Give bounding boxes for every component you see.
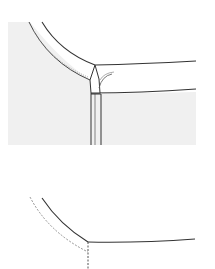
straight-edge xyxy=(88,239,195,242)
bottom-panel-figure xyxy=(0,150,215,269)
seam-allowance-dashed xyxy=(30,197,88,252)
top-panel-figure xyxy=(0,0,215,150)
neckline-curve xyxy=(42,198,88,242)
